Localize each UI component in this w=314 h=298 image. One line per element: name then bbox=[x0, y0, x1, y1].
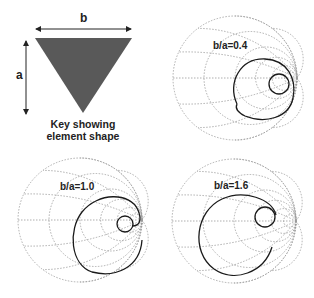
impedance-trace bbox=[234, 59, 294, 119]
smith-chart-0.4 bbox=[173, 16, 303, 140]
key-caption-line1: Key showing bbox=[33, 118, 133, 130]
chart-label-1.0: b/a=1.0 bbox=[60, 181, 94, 192]
smith-chart-1.0 bbox=[18, 158, 148, 282]
element-shape-key bbox=[26, 29, 132, 114]
chart-label-0.4: b/a=0.4 bbox=[213, 40, 247, 51]
figure-canvas bbox=[0, 0, 314, 298]
triangle-shape bbox=[35, 38, 132, 113]
width-label: b bbox=[80, 11, 87, 25]
height-label: a bbox=[16, 68, 23, 82]
smith-chart-1.6 bbox=[172, 159, 302, 283]
key-caption: Key showing element shape bbox=[33, 118, 133, 142]
key-caption-line2: element shape bbox=[33, 130, 133, 142]
chart-label-1.6: b/a=1.6 bbox=[214, 180, 248, 191]
